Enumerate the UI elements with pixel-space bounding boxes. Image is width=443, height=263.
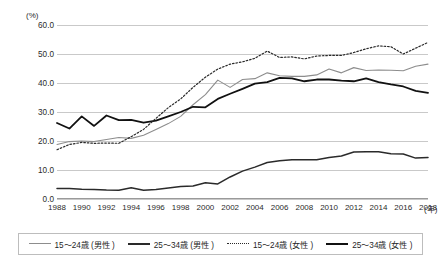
- x-axis-tick-label: 1990: [73, 203, 91, 212]
- y-axis-tick-label: 50.0: [6, 50, 54, 59]
- y-axis-tick-label: 10.0: [6, 166, 54, 175]
- series-line: [57, 152, 428, 191]
- series-lines: [57, 25, 428, 199]
- y-axis-tick-label: 0.0: [6, 195, 54, 204]
- chart-legend: 15～24歳 (男性 )25～34歳 (男性 )15～24歳 (女性 )25～3…: [18, 233, 423, 255]
- x-axis-line: [57, 198, 428, 199]
- gridline: [57, 199, 428, 200]
- x-axis-tick-label: 1988: [48, 203, 66, 212]
- legend-item[interactable]: 25～34歳 (男性 ): [128, 238, 214, 250]
- legend-item-label: 25～34歳 (女性 ): [352, 238, 412, 250]
- series-line: [57, 42, 428, 149]
- series-line: [57, 64, 428, 144]
- y-axis-tick-label: 40.0: [6, 79, 54, 88]
- y-axis-tick-label: 20.0: [6, 137, 54, 146]
- legend-item[interactable]: 15～24歳 (男性 ): [29, 238, 115, 250]
- x-axis-tick-label: 1994: [122, 203, 140, 212]
- plot-area: [57, 25, 428, 199]
- x-axis-tick-label: 2010: [320, 203, 338, 212]
- x-axis-tick-label: 2006: [271, 203, 289, 212]
- chart-container: (%) 0.010.020.030.040.050.060.0 19881990…: [0, 0, 443, 263]
- legend-item-label: 25～34歳 (男性 ): [154, 238, 214, 250]
- x-axis-tick-label: 2016: [394, 203, 412, 212]
- legend-item[interactable]: 25～34歳 (女性 ): [326, 238, 412, 250]
- legend-item[interactable]: 15～24歳 (女性 ): [227, 238, 313, 250]
- x-axis-tick-label: 2008: [295, 203, 313, 212]
- x-axis-tick-label: 2002: [221, 203, 239, 212]
- x-axis-tick-label: 2014: [370, 203, 388, 212]
- x-axis-tick-label: 1996: [147, 203, 165, 212]
- series-line: [57, 78, 428, 129]
- legend-item-label: 15～24歳 (女性 ): [253, 238, 313, 250]
- x-axis-tick-label: 1998: [172, 203, 190, 212]
- x-axis-tick-label: 2000: [196, 203, 214, 212]
- y-axis-unit-label: (%): [26, 11, 38, 20]
- x-axis-tick-label: 2004: [246, 203, 264, 212]
- x-axis-tick-labels: 1988199019921994199619982000200220042006…: [57, 203, 428, 217]
- x-axis-unit-label: (年): [424, 203, 437, 214]
- legend-item-label: 15～24歳 (男性 ): [55, 238, 115, 250]
- y-axis-tick-label: 30.0: [6, 108, 54, 117]
- y-axis-tick-label: 60.0: [6, 21, 54, 30]
- x-axis-tick-label: 1992: [98, 203, 116, 212]
- x-axis-tick-label: 2012: [345, 203, 363, 212]
